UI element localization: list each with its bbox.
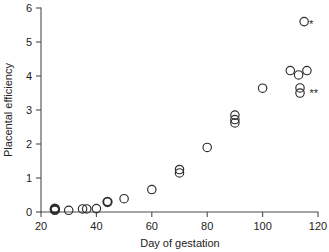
data-point xyxy=(296,89,304,97)
y-axis: 0123456 xyxy=(26,2,41,218)
y-tick-label: 2 xyxy=(26,138,32,150)
annotations-layer: *** xyxy=(309,18,319,99)
y-tick-label: 4 xyxy=(26,70,32,82)
x-axis: 20406080100120 xyxy=(35,212,327,232)
x-axis-title: Day of gestation xyxy=(140,237,220,249)
y-axis-title: Placental efficiency xyxy=(2,63,14,157)
data-point xyxy=(258,84,266,92)
data-point xyxy=(286,66,294,74)
scatter-plot: 0123456 20406080100120 *** Day of gestat… xyxy=(0,0,329,252)
x-tick-label: 40 xyxy=(90,220,102,232)
x-tick-label: 100 xyxy=(253,220,271,232)
data-point xyxy=(300,17,308,25)
x-tick-label: 60 xyxy=(146,220,158,232)
x-axis-ticks: 20406080100120 xyxy=(35,212,327,232)
data-point xyxy=(203,143,211,151)
data-point xyxy=(303,66,311,74)
x-tick-label: 80 xyxy=(201,220,213,232)
y-tick-label: 1 xyxy=(26,172,32,184)
data-points-layer xyxy=(51,17,311,214)
data-point xyxy=(120,195,128,203)
data-point xyxy=(294,71,302,79)
data-point xyxy=(65,206,73,214)
x-tick-label: 20 xyxy=(35,220,47,232)
data-point xyxy=(103,198,111,206)
placental-efficiency-scatter-figure: 0123456 20406080100120 *** Day of gestat… xyxy=(0,0,329,252)
y-tick-label: 5 xyxy=(26,36,32,48)
y-axis-ticks: 0123456 xyxy=(26,2,41,218)
significance-annotation: * xyxy=(309,18,314,30)
y-tick-label: 0 xyxy=(26,206,32,218)
y-tick-label: 3 xyxy=(26,104,32,116)
data-point xyxy=(148,185,156,193)
x-tick-label: 120 xyxy=(309,220,327,232)
significance-annotation: ** xyxy=(310,87,319,99)
y-tick-label: 6 xyxy=(26,2,32,14)
